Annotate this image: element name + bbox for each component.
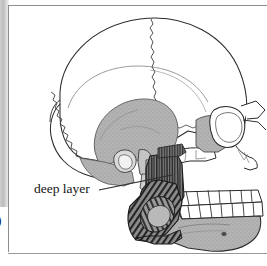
mental-foramen [221, 232, 226, 236]
external-acoustic-meatus [114, 150, 136, 173]
skull-lateral-illustration: deep layer [0, 0, 267, 266]
figure-page: 0 [0, 0, 267, 266]
deep-layer-label: deep layer [34, 181, 90, 196]
